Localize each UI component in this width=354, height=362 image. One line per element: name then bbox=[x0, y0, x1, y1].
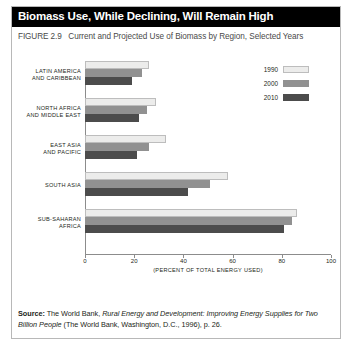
figure-container: Biomass Use, While Declining, Will Remai… bbox=[11, 6, 341, 339]
bar-2000 bbox=[85, 106, 147, 114]
bar-1990 bbox=[85, 135, 166, 143]
bar-2010 bbox=[85, 77, 132, 85]
category-label: SOUTH ASIA bbox=[13, 182, 81, 189]
category-label: SUB-SAHARANAFRICA bbox=[13, 216, 81, 230]
bar-1990 bbox=[85, 98, 156, 106]
source-text-2: (The World Bank, Washington, D.C., 1996)… bbox=[62, 320, 222, 329]
x-axis-label: (PERCENT OF TOTAL ENERGY USED) bbox=[85, 267, 331, 273]
bar-2010 bbox=[85, 114, 139, 122]
source-label: Source: bbox=[18, 309, 45, 318]
bar-2000 bbox=[85, 217, 292, 225]
bar-2010 bbox=[85, 151, 137, 159]
figure-subtitle-text: Current and Projected Use of Biomass by … bbox=[68, 32, 303, 41]
chart-legend: 1990 2000 2010 bbox=[234, 64, 309, 106]
bar-2000 bbox=[85, 180, 210, 188]
x-tick-label: 60 bbox=[229, 258, 236, 264]
legend-item-2010: 2010 bbox=[234, 92, 309, 103]
bar-2000 bbox=[85, 143, 149, 151]
legend-swatch-1990 bbox=[283, 66, 309, 73]
bar-2000 bbox=[85, 69, 142, 77]
legend-item-1990: 1990 bbox=[234, 64, 309, 75]
legend-label-2010: 2010 bbox=[264, 94, 278, 101]
bar-2010 bbox=[85, 225, 284, 233]
figure-number: FIGURE 2.9 bbox=[18, 32, 62, 41]
x-tick-label: 100 bbox=[326, 258, 336, 264]
bar-1990 bbox=[85, 172, 228, 180]
figure-subtitle: FIGURE 2.9 Current and Projected Use of … bbox=[12, 27, 340, 41]
x-axis-line bbox=[85, 254, 331, 255]
bar-1990 bbox=[85, 209, 297, 217]
category-label: NORTH AFRICAAND MIDDLE EAST bbox=[13, 105, 81, 119]
legend-label-1990: 1990 bbox=[264, 66, 278, 73]
x-tick-label: 20 bbox=[131, 258, 138, 264]
figure-title: Biomass Use, While Declining, Will Remai… bbox=[12, 7, 340, 27]
source-note: Source: The World Bank, Rural Energy and… bbox=[18, 309, 334, 330]
legend-swatch-2000 bbox=[283, 80, 309, 87]
category-label: EAST ASIAAND PACIFIC bbox=[13, 142, 81, 156]
x-tick-label: 80 bbox=[278, 258, 285, 264]
legend-swatch-2010 bbox=[283, 94, 309, 101]
legend-label-2000: 2000 bbox=[264, 80, 278, 87]
x-tick-label: 40 bbox=[180, 258, 187, 264]
bar-2010 bbox=[85, 188, 188, 196]
source-text-1: The World Bank, bbox=[45, 309, 102, 318]
legend-item-2000: 2000 bbox=[234, 78, 309, 89]
bar-1990 bbox=[85, 61, 149, 69]
x-tick-label: 0 bbox=[83, 258, 86, 264]
category-label: LATIN AMERICAAND CARIBBEAN bbox=[13, 68, 81, 82]
